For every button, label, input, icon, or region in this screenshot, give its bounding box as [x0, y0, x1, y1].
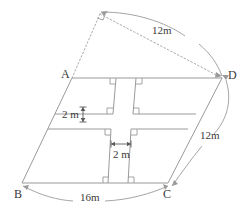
right-angle-icon-8: [128, 177, 134, 183]
measure-arc-arrowheads: [23, 11, 229, 190]
path-vertical-left-lower: [108, 129, 111, 183]
path-width-arrowheads: [81, 107, 131, 146]
measure-arc-bottom-16m: [23, 186, 73, 201]
arrowhead-bottom-start: [23, 185, 29, 190]
parallelogram-outline: [22, 78, 222, 183]
label-B: B: [14, 188, 22, 200]
measure-arc-top-12m-part2: [199, 44, 222, 76]
dimension-label-right-12m: 12m: [200, 130, 220, 141]
measure-arc-right-12m: [214, 80, 229, 134]
figure-svg: [0, 0, 246, 216]
arrowhead-2m-horiz-left: [111, 142, 115, 147]
label-C: C: [163, 188, 171, 200]
right-angle-icon-3: [107, 108, 113, 114]
path-vertical-right-upper: [133, 78, 136, 114]
label-D: D: [228, 69, 237, 81]
cross-path-lines: [48, 78, 196, 183]
arrowhead-2m-vert-down: [81, 118, 86, 122]
arrowhead-right-end: [172, 180, 178, 186]
side-AB: [22, 78, 72, 183]
dotted-segment-AE: [72, 14, 100, 78]
label-A: A: [61, 68, 70, 80]
dimension-label-top-12m: 12m: [152, 25, 172, 36]
dimension-label-path-width-vertical: 2 m: [62, 109, 79, 120]
right-angle-icon-5: [105, 129, 111, 135]
right-angle-icon-2: [136, 78, 142, 84]
geometry-diagram-canvas: A B C D 12m 12m 16m 2 m 2 m: [0, 0, 246, 216]
measure-arcs: [23, 12, 229, 201]
right-angle-icon-6: [131, 129, 137, 135]
path-vertical-left-upper: [113, 78, 116, 114]
measure-arc-top-12m: [101, 12, 185, 36]
dimension-label-path-width-horizontal: 2 m: [113, 149, 130, 160]
path-width-arrows: [80, 107, 132, 148]
arrowhead-2m-vert-up: [81, 107, 86, 111]
dimension-label-bottom-16m: 16m: [80, 192, 100, 203]
dotted-triangle-AED: [72, 14, 222, 78]
measure-arc-bottom-16m-part2: [105, 186, 168, 201]
